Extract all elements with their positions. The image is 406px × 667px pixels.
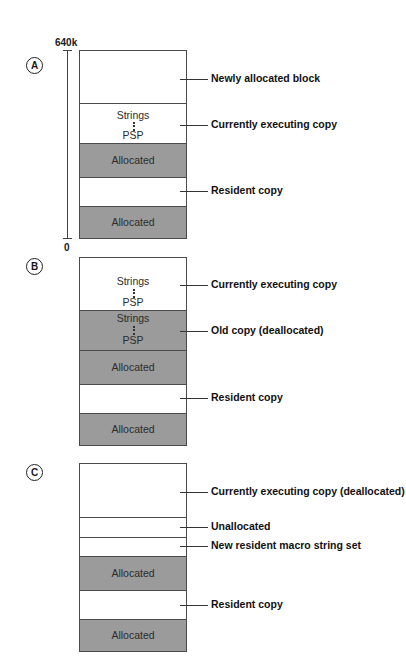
memory-map-b: Strings PSP Strings PSP Allocated Alloca… bbox=[79, 257, 187, 446]
block-currently-executing: Strings PSP bbox=[79, 103, 187, 144]
block-text-allocated: Allocated bbox=[80, 216, 186, 228]
ruler-bottom-label: 0 bbox=[64, 242, 70, 253]
memory-map-c: Allocated Allocated bbox=[79, 463, 187, 652]
block-allocated: Allocated bbox=[79, 556, 187, 591]
label-resident-copy: Resident copy bbox=[211, 391, 283, 403]
block-allocated: Allocated bbox=[79, 619, 187, 652]
block-newly-allocated bbox=[79, 50, 187, 104]
diagram-a-marker: A bbox=[26, 57, 43, 74]
block-text-strings: Strings bbox=[80, 275, 186, 287]
block-text-allocated: Allocated bbox=[80, 361, 186, 373]
ruler-bottom-tick bbox=[63, 238, 72, 239]
leader-line bbox=[180, 605, 208, 606]
block-currently-executing-deallocated bbox=[79, 463, 187, 518]
block-allocated: Allocated bbox=[79, 350, 187, 385]
label-resident-copy: Resident copy bbox=[211, 598, 283, 610]
block-text-psp: PSP bbox=[80, 296, 186, 308]
leader-line bbox=[180, 331, 208, 332]
block-text-strings: Strings bbox=[80, 312, 186, 324]
block-text-allocated: Allocated bbox=[80, 629, 186, 641]
label-unallocated: Unallocated bbox=[211, 520, 271, 532]
block-text-psp: PSP bbox=[80, 334, 186, 346]
diagram-b-marker: B bbox=[26, 258, 43, 275]
leader-line bbox=[180, 527, 208, 528]
block-text-allocated: Allocated bbox=[80, 154, 186, 166]
block-text-allocated: Allocated bbox=[80, 567, 186, 579]
label-currently-executing-deallocated: Currently executing copy (deallocated) bbox=[211, 485, 405, 497]
block-resident-copy bbox=[79, 177, 187, 207]
block-new-resident-macro-strings bbox=[79, 537, 187, 557]
leader-line bbox=[180, 79, 208, 80]
ruler-top-label: 640k bbox=[55, 37, 77, 48]
label-currently-executing-copy: Currently executing copy bbox=[211, 118, 337, 130]
block-currently-executing: Strings PSP bbox=[79, 257, 187, 311]
label-resident-copy: Resident copy bbox=[211, 184, 283, 196]
block-allocated: Allocated bbox=[79, 413, 187, 446]
leader-line bbox=[180, 191, 208, 192]
block-allocated: Allocated bbox=[79, 206, 187, 239]
memory-map-a: Strings PSP Allocated Allocated bbox=[79, 50, 187, 239]
block-allocated: Allocated bbox=[79, 143, 187, 178]
diagram-c-marker: C bbox=[26, 464, 43, 481]
label-newly-allocated-block: Newly allocated block bbox=[211, 72, 320, 84]
block-text-allocated: Allocated bbox=[80, 423, 186, 435]
leader-line bbox=[180, 492, 208, 493]
block-text-strings: Strings bbox=[80, 109, 186, 121]
block-unallocated bbox=[79, 517, 187, 538]
leader-line bbox=[180, 125, 208, 126]
leader-line bbox=[180, 285, 208, 286]
leader-line bbox=[180, 546, 208, 547]
label-new-resident-macro-string-set: New resident macro string set bbox=[211, 539, 361, 551]
leader-line bbox=[180, 398, 208, 399]
block-text-psp: PSP bbox=[80, 129, 186, 141]
label-old-copy-deallocated: Old copy (deallocated) bbox=[211, 324, 324, 336]
block-old-copy: Strings PSP bbox=[79, 310, 187, 351]
block-resident-copy bbox=[79, 384, 187, 414]
block-resident-copy bbox=[79, 590, 187, 620]
memory-ruler bbox=[67, 50, 68, 238]
label-currently-executing-copy: Currently executing copy bbox=[211, 278, 337, 290]
